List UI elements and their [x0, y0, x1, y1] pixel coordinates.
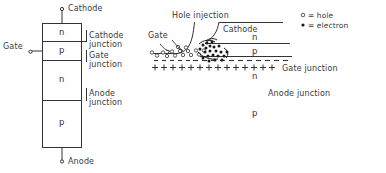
cathode-junction-line2: junction	[89, 40, 122, 49]
left-gate-junction-label: Gatejunction	[89, 51, 122, 69]
anode-lead-group	[60, 148, 63, 164]
right-layer-label-p1: p	[252, 47, 258, 57]
left-cathode-junction-label: Cathodejunction	[89, 31, 124, 49]
gate-junction-line2: junction	[89, 60, 122, 69]
right-layer-label-n2: n	[252, 72, 258, 82]
left-gate-terminal-label: Gate	[3, 42, 23, 52]
right-anode-junction-label: Anode junction	[268, 89, 330, 99]
positive-charge-row	[152, 65, 275, 71]
left-anode-junction-label: Anodejunction	[89, 89, 122, 107]
gate-terminal-dot	[29, 50, 32, 53]
left-structure-group	[43, 24, 82, 148]
hole-legend-symbol	[301, 13, 305, 17]
legend-item-hole: = hole	[308, 11, 333, 20]
legend-symbols	[301, 13, 305, 26]
electron-legend-symbol	[301, 23, 304, 26]
right-gate-label: Gate	[148, 31, 168, 41]
hole-injection-label: Hole injection	[172, 11, 229, 21]
cathode-junction-line1: Cathode	[89, 31, 124, 40]
gate-junction-line1: Gate	[89, 51, 109, 60]
right-gate-junction-label: Gate junction	[282, 64, 338, 74]
cathode-lead-group	[60, 7, 63, 23]
anode-junction-line1: Anode	[89, 89, 115, 98]
right-layer-label-n1: n	[252, 33, 258, 43]
legend-item-electron: = electron	[308, 21, 348, 30]
right-layer-label-p2: p	[252, 109, 258, 119]
left-cathode-terminal-label: Cathode	[68, 4, 103, 14]
anode-terminal-dot	[60, 160, 63, 163]
left-layer-label-n1: n	[59, 28, 65, 38]
left-layer-label-n2: n	[59, 75, 65, 85]
left-anode-terminal-label: Anode	[68, 157, 94, 167]
left-junction-pointer-lines	[82, 30, 88, 101]
anode-junction-line2: junction	[89, 98, 122, 107]
left-layer-label-p1: p	[59, 46, 65, 56]
figure-root: Cathode Gate Anode n p n p Cathodejuncti…	[0, 0, 386, 173]
left-layer-label-p2: p	[59, 118, 65, 128]
cathode-terminal-dot	[60, 7, 63, 10]
gate-lead-group	[29, 50, 43, 53]
device-body-outline	[43, 24, 82, 148]
